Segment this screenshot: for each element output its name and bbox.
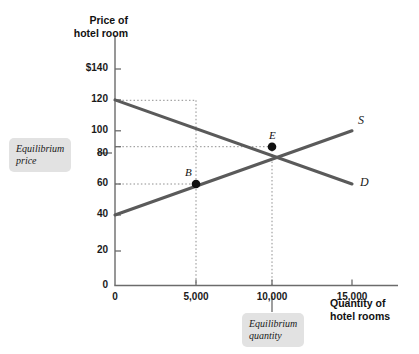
y-axis-ticks xyxy=(115,69,121,251)
point-b-marker xyxy=(192,180,201,189)
y-axis-title-line1: Price of xyxy=(56,14,128,27)
y-tick-label-20: 20 xyxy=(58,244,108,255)
x-tick-label-15000: 15,000 xyxy=(325,291,379,302)
equilibrium-price-callout-line2: price xyxy=(16,155,64,167)
equilibrium-price-callout-line1: Equilibrium xyxy=(16,143,64,155)
y-tick-label-120: 120 xyxy=(58,93,108,104)
y-axis-title-line2: hotel room xyxy=(56,27,128,40)
equilibrium-point-marker xyxy=(268,142,277,151)
equilibrium-point-label: E xyxy=(269,129,276,141)
supply-demand-chart-figure: Price of hotel room Quantity of hotel ro… xyxy=(0,0,419,354)
axis-lines xyxy=(114,35,398,286)
x-axis-title-line2: hotel rooms xyxy=(330,310,416,323)
y-tick-label-40: 40 xyxy=(58,208,108,219)
equilibrium-quantity-callout-line1: Equilibrium xyxy=(249,318,297,330)
y-tick-label-60: 60 xyxy=(58,177,108,188)
y-axis-title: Price of hotel room xyxy=(56,14,128,39)
demand-curve-label: D xyxy=(360,175,369,190)
y-tick-label-0: 0 xyxy=(58,279,108,290)
x-tick-label-0: 0 xyxy=(95,291,135,302)
y-tick-label-140: $140 xyxy=(58,62,108,73)
x-tick-label-10000: 10,000 xyxy=(245,291,299,302)
equilibrium-quantity-callout-line2: quantity xyxy=(249,330,297,342)
supply-curve-label: S xyxy=(358,113,364,128)
equilibrium-price-callout: Equilibrium price xyxy=(9,138,71,172)
y-tick-label-100: 100 xyxy=(58,124,108,135)
point-b-label: B xyxy=(185,166,192,178)
x-axis-ticks xyxy=(196,280,352,286)
x-tick-label-5000: 5,000 xyxy=(171,291,221,302)
equilibrium-quantity-callout: Equilibrium quantity xyxy=(242,313,304,347)
